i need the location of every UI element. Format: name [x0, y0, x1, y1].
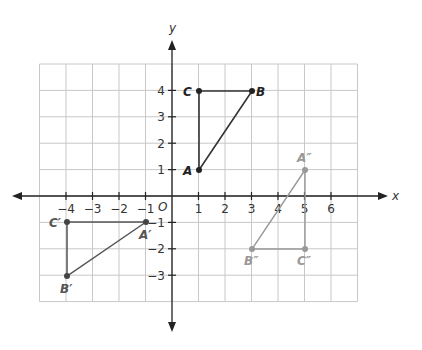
y-tick-label: 1 [157, 163, 165, 177]
ticks: −4−3−2−11234564321−1−2−3 [57, 84, 335, 283]
label-b-prime: B′ [60, 282, 73, 296]
origin-label: O [158, 200, 167, 214]
label-a: A [182, 164, 192, 178]
label-b: B [256, 85, 265, 99]
y-tick-label: −3 [147, 269, 165, 283]
point-b-double-prime [249, 246, 255, 252]
point-c-prime [64, 219, 70, 225]
y-tick-label: 2 [157, 137, 165, 151]
x-tick-label: 6 [327, 202, 335, 216]
y-tick-label: −2 [147, 242, 165, 256]
label-c-prime: C′ [49, 216, 62, 230]
point-c [196, 88, 202, 94]
label-a-prime: A′ [138, 228, 152, 242]
label-c: C [183, 85, 192, 99]
x-tick-label: 3 [248, 202, 256, 216]
x-tick-label: 1 [195, 202, 203, 216]
x-tick-label: −1 [137, 202, 155, 216]
point-c-double-prime [302, 246, 308, 252]
y-axis-down-arrow-icon [168, 322, 176, 332]
label-a-double-prime: A″ [296, 151, 312, 165]
point-b-prime [64, 273, 70, 279]
x-axis-label: x [391, 189, 400, 203]
label-b-double-prime: B″ [244, 254, 259, 268]
point-b [249, 88, 255, 94]
point-a-double-prime [302, 167, 308, 173]
point-a-prime [143, 219, 149, 225]
x-tick-label: −2 [110, 202, 128, 216]
y-tick-label: 4 [157, 84, 165, 98]
y-axis-up-arrow-icon [168, 40, 176, 50]
x-axis-right-arrow-icon [378, 192, 388, 200]
label-c-double-prime: C″ [297, 254, 312, 268]
x-axis-left-arrow-icon [12, 192, 22, 200]
triangle-a-prime: A′ B′ C′ [49, 216, 152, 296]
point-a [196, 167, 202, 173]
y-axis-label: y [168, 21, 177, 35]
y-tick-label: 3 [157, 110, 165, 124]
x-tick-label: −3 [84, 202, 102, 216]
x-tick-label: −4 [57, 202, 75, 216]
x-tick-label: 2 [221, 202, 229, 216]
coordinate-plane-figure: x y O −4−3−2−11234564321−1−2−3 A B C [0, 0, 422, 350]
triangle-abc: A B C [182, 85, 265, 178]
coordinate-plane: x y O −4−3−2−11234564321−1−2−3 A B C [0, 0, 422, 350]
